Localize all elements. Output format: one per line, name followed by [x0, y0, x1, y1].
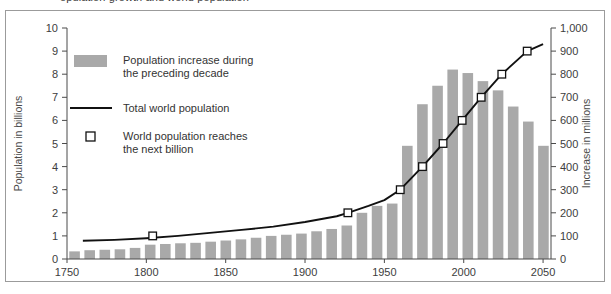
y-axis-tick-label: 5: [52, 138, 58, 150]
bar: [326, 229, 337, 259]
y-axis-tick-label: 10: [46, 22, 58, 34]
milestone-marker: [396, 186, 404, 194]
bar: [417, 104, 428, 259]
bar: [508, 107, 519, 259]
y2-axis-tick-label: 900: [560, 45, 578, 57]
bar: [463, 73, 474, 259]
milestone-marker: [523, 47, 531, 55]
chart-legend: Population increase duringthe preceding …: [70, 54, 253, 155]
bar: [538, 146, 549, 259]
bar: [175, 243, 186, 259]
legend-label-line3: Total world population: [123, 102, 229, 114]
bar: [190, 243, 201, 259]
bar: [130, 248, 141, 259]
bar: [281, 235, 292, 259]
bar: [236, 239, 247, 259]
y2-axis-tick-label: 400: [560, 161, 578, 173]
y-axis-tick-label: 9: [52, 45, 58, 57]
legend-open-square-swatch: [86, 132, 95, 141]
bar: [432, 86, 443, 259]
y2-axis-tick-label: 200: [560, 207, 578, 219]
bar: [402, 146, 413, 259]
x-axis-tick-label: 1750: [55, 266, 79, 278]
y2-axis-tick-label: 300: [560, 184, 578, 196]
legend-label-line2: the preceding decade: [123, 67, 229, 79]
y2-axis-tick-label: 0: [560, 253, 566, 265]
legend-label-line1: Population increase during: [123, 54, 253, 66]
bar: [478, 81, 489, 259]
bar: [221, 241, 232, 259]
chart-frame: 0123456789100100200300400500600700800900…: [5, 10, 605, 282]
y-axis-tick-label: 6: [52, 114, 58, 126]
milestone-marker: [149, 232, 157, 240]
y-axis-tick-label: 4: [52, 161, 58, 173]
figure-caption: opulation growth and world population: [60, 0, 249, 3]
y2-axis-tick-label: 1,000: [560, 22, 588, 34]
x-axis-tick-label: 2050: [531, 266, 555, 278]
milestone-marker: [344, 209, 352, 217]
milestone-marker: [498, 70, 506, 78]
y-axis-tick-label: 1: [52, 230, 58, 242]
x-axis-tick-label: 1850: [213, 266, 237, 278]
y-axis-tick-label: 7: [52, 91, 58, 103]
bar: [145, 245, 156, 259]
y-axis-tick-label: 8: [52, 68, 58, 80]
y2-axis-tick-label: 500: [560, 138, 578, 150]
y-axis-tick-label: 0: [52, 253, 58, 265]
y-axis-title: Population in billions: [12, 96, 24, 192]
bar: [342, 226, 353, 260]
legend-label-line4: World population reaches: [123, 130, 248, 142]
milestone-marker: [458, 117, 466, 125]
y2-axis-title: Increase in millions: [580, 99, 592, 188]
bar: [266, 236, 277, 259]
milestone-marker: [419, 163, 427, 171]
bar: [372, 206, 383, 259]
population-chart: 0123456789100100200300400500600700800900…: [6, 11, 604, 281]
bar: [447, 70, 458, 259]
milestone-marker: [477, 94, 485, 102]
y2-axis-tick-label: 800: [560, 68, 578, 80]
y-axis-tick-label: 2: [52, 207, 58, 219]
y2-axis-tick-label: 700: [560, 91, 578, 103]
y2-axis-tick-label: 600: [560, 114, 578, 126]
x-axis-tick-label: 1950: [372, 266, 396, 278]
y-axis-tick-label: 3: [52, 184, 58, 196]
x-axis-tick-label: 1900: [293, 266, 317, 278]
bar: [205, 242, 216, 259]
legend-label-line5: the next billion: [123, 143, 193, 155]
bar: [100, 250, 111, 259]
bar: [311, 231, 322, 259]
bar: [251, 238, 262, 259]
chart-figure: opulation growth and world population 01…: [0, 0, 611, 294]
bar: [160, 244, 171, 259]
milestone-marker: [439, 140, 447, 148]
y2-axis-tick-label: 100: [560, 230, 578, 242]
bar: [296, 234, 307, 259]
bar: [387, 204, 398, 259]
bar: [357, 213, 368, 259]
bar: [84, 250, 95, 259]
bar: [115, 249, 126, 259]
x-axis-tick-label: 1800: [134, 266, 158, 278]
legend-bar-swatch: [74, 55, 107, 67]
bar: [69, 251, 80, 259]
bar: [523, 122, 534, 259]
x-axis-tick-label: 2000: [451, 266, 475, 278]
bar: [493, 90, 504, 259]
